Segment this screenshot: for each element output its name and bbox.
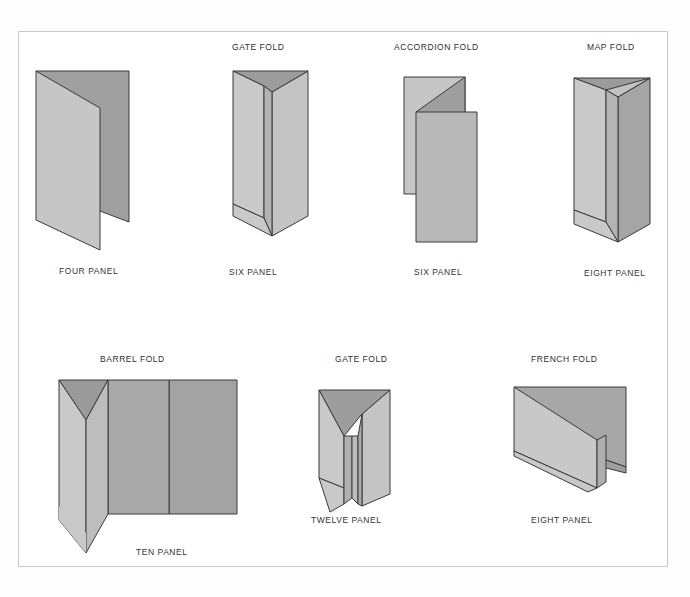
label-accordion-fold: ACCORDION FOLD bbox=[394, 43, 479, 52]
gate12-center-inner-face bbox=[344, 436, 352, 504]
label-six-panel-accordion: SIX PANEL bbox=[414, 268, 462, 277]
figure-map-fold-eight bbox=[562, 64, 662, 260]
label-french-fold: FRENCH FOLD bbox=[531, 355, 598, 364]
accordion-front-face bbox=[416, 112, 477, 242]
label-gate-fold-bottom: GATE FOLD bbox=[335, 355, 388, 364]
page-canvas: FOUR PANEL GATE FOLD SIX PANEL ACCORDION… bbox=[0, 0, 690, 597]
label-barrel-fold: BARREL FOLD bbox=[100, 355, 165, 364]
map-fold-right-face bbox=[618, 78, 650, 242]
figure-accordion-fold-six bbox=[397, 72, 497, 247]
gate-fold-left-face bbox=[233, 71, 264, 218]
gate12-gap-face bbox=[352, 436, 358, 504]
gate12-right-inner-face bbox=[358, 414, 362, 506]
french-spine-strip bbox=[597, 435, 606, 488]
label-gate-fold-top: GATE FOLD bbox=[232, 43, 285, 52]
map-fold-left-face bbox=[574, 78, 606, 222]
figure-gate-fold-six bbox=[224, 64, 316, 260]
label-four-panel: FOUR PANEL bbox=[59, 267, 118, 276]
gate-fold-center-face bbox=[264, 86, 272, 236]
figure-gate-fold-twelve bbox=[306, 378, 406, 523]
figure-french-fold-eight bbox=[478, 378, 638, 498]
label-six-panel-gate: SIX PANEL bbox=[229, 268, 277, 277]
label-eight-panel-french: EIGHT PANEL bbox=[531, 516, 592, 525]
figure-four-panel bbox=[30, 68, 135, 253]
figure-barrel-fold-ten bbox=[48, 378, 248, 558]
barrel-right-near-face bbox=[108, 380, 169, 514]
label-eight-panel-map: EIGHT PANEL bbox=[584, 269, 645, 278]
label-map-fold: MAP FOLD bbox=[587, 43, 635, 52]
label-twelve-panel: TWELVE PANEL bbox=[311, 516, 382, 525]
gate-fold-right-face bbox=[272, 71, 308, 236]
label-ten-panel: TEN PANEL bbox=[136, 548, 188, 557]
barrel-right-far-face bbox=[169, 380, 237, 514]
map-fold-center-face bbox=[606, 90, 618, 242]
